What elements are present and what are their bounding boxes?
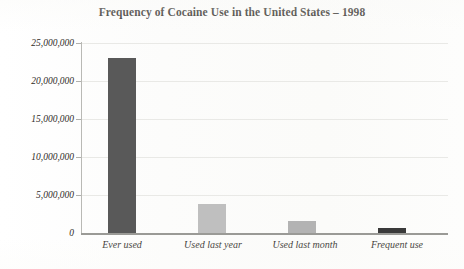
y-axis-labels: 25,000,000 20,000,000 15,000,000 10,000,… [0,0,74,269]
x-category-label-used-last-year: Used last year [167,239,259,250]
x-category-label-used-last-month: Used last month [257,239,353,250]
y-tick-label-10000000: 10,000,000 [2,152,74,162]
x-category-label-ever-used: Ever used [82,239,162,250]
y-tick-label-5000000: 5,000,000 [2,190,74,200]
chart-page: Frequency of Cocaine Use in the United S… [0,0,464,269]
bar-ever-used[interactable] [108,58,136,233]
y-tick-label-25000000: 25,000,000 [2,38,74,48]
bar-used-last-year[interactable] [198,204,226,233]
y-tick-label-0: 0 [2,228,74,238]
y-axis-line [81,42,82,234]
y-tick-label-15000000: 15,000,000 [2,114,74,124]
bar-used-last-month[interactable] [288,221,316,233]
x-axis-line [81,233,448,235]
x-category-label-frequent-use: Frequent use [351,239,443,250]
bars-layer [81,43,448,233]
y-tick-label-20000000: 20,000,000 [2,76,74,86]
